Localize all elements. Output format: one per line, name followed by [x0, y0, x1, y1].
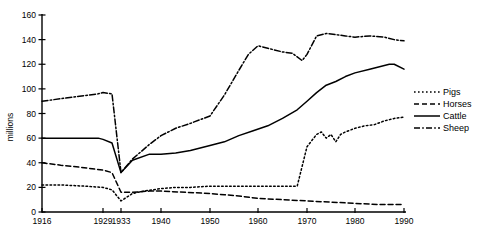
- y-tick-label: 120: [22, 59, 36, 69]
- y-axis-group: 020406080100120140160: [22, 10, 46, 217]
- x-tick-label: 1929: [94, 216, 113, 226]
- x-tick-label: 1950: [201, 216, 220, 226]
- series-line-pigs: [42, 117, 404, 201]
- x-tick-label-group: 191619291933194019501960197019801990: [33, 216, 414, 226]
- x-tick-label: 1933: [112, 216, 131, 226]
- y-tick-label: 80: [27, 109, 37, 119]
- x-tick-label: 1916: [33, 216, 52, 226]
- chart-svg: 020406080100120140160 191619291933194019…: [0, 0, 489, 244]
- y-tick-label: 20: [27, 182, 37, 192]
- series-line-sheep: [42, 33, 404, 172]
- x-tick-label: 1970: [298, 216, 317, 226]
- x-tick-label: 1960: [249, 216, 268, 226]
- x-tick-label: 1940: [152, 216, 171, 226]
- x-axis-group: 191619291933194019501960197019801990: [33, 208, 414, 226]
- legend-label-pigs: Pigs: [443, 87, 461, 97]
- x-tick-label: 1980: [346, 216, 365, 226]
- y-tick-label: 140: [22, 35, 36, 45]
- series-line-cattle: [42, 64, 404, 172]
- y-tick-label-group: 020406080100120140160: [22, 10, 36, 217]
- legend-label-sheep: Sheep: [443, 123, 469, 133]
- y-tick-label: 100: [22, 84, 36, 94]
- x-tick-label: 1990: [395, 216, 414, 226]
- series-group: [42, 33, 404, 204]
- y-tick-label: 60: [27, 133, 37, 143]
- livestock-line-chart: 020406080100120140160 191619291933194019…: [0, 0, 489, 244]
- y-axis-title: millions: [5, 113, 15, 141]
- series-line-horses: [42, 163, 404, 205]
- legend-label-horses: Horses: [443, 99, 472, 109]
- y-tick-label: 160: [22, 10, 36, 20]
- legend-label-cattle: Cattle: [443, 111, 467, 121]
- chart-legend: PigsHorsesCattleSheep: [414, 87, 472, 133]
- y-tick-label: 40: [27, 158, 37, 168]
